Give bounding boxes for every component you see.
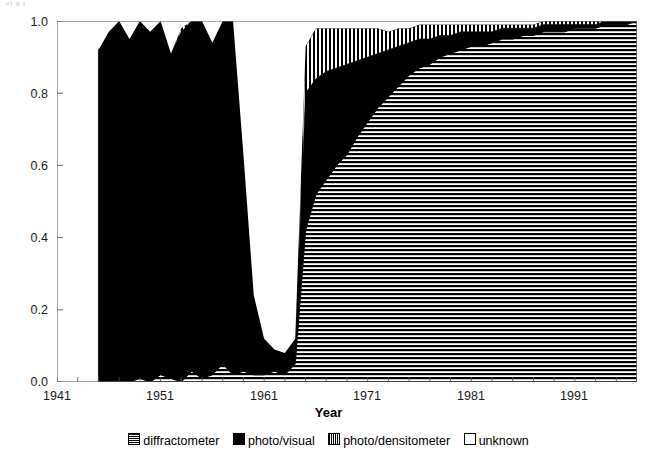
y-tick-0.8: 0.8 <box>8 87 48 101</box>
legend-label-photo-visual: photo/visual <box>248 434 315 448</box>
top-artifact-text: u) g ) <box>6 0 26 6</box>
y-tick-0.4: 0.4 <box>8 231 48 245</box>
photo-densitometer-swatch-icon <box>328 433 340 445</box>
area-series-group <box>98 21 637 382</box>
x-axis-title: Year <box>0 405 657 420</box>
stacked-area-chart <box>57 21 637 382</box>
legend-item-photo-visual: photo/visual <box>233 433 315 448</box>
x-tick-1981: 1981 <box>441 389 501 403</box>
y-tick-1.0: 1.0 <box>8 15 48 29</box>
x-tick-1951: 1951 <box>130 389 190 403</box>
legend-label-photo-densitometer: photo/densitometer <box>343 434 450 448</box>
x-tick-1941: 1941 <box>27 389 87 403</box>
chart-legend: diffractometer photo/visual photo/densit… <box>0 433 657 448</box>
legend-label-diffractometer: diffractometer <box>143 434 219 448</box>
legend-label-unknown: unknown <box>479 434 529 448</box>
x-tick-1961: 1961 <box>234 389 294 403</box>
x-tick-1991: 1991 <box>544 389 604 403</box>
y-tick-0.0: 0.0 <box>8 375 48 389</box>
unknown-swatch-icon <box>464 433 476 445</box>
legend-item-unknown: unknown <box>464 433 529 448</box>
plot-area <box>57 21 637 382</box>
x-tick-1971: 1971 <box>337 389 397 403</box>
legend-item-photo-densitometer: photo/densitometer <box>328 433 450 448</box>
diffractometer-swatch-icon <box>128 433 140 445</box>
legend-item-diffractometer: diffractometer <box>128 433 219 448</box>
y-tick-0.2: 0.2 <box>8 303 48 317</box>
photo-visual-swatch-icon <box>233 433 245 445</box>
y-tick-0.6: 0.6 <box>8 159 48 173</box>
